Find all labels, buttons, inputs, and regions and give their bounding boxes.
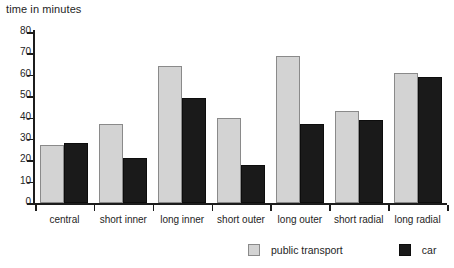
y-axis-tick-label: 20: [20, 153, 31, 164]
y-axis-tick: 0: [0, 203, 42, 204]
bar: [40, 145, 64, 203]
y-axis-tick-mark: [27, 160, 34, 162]
y-axis-tick-mark: [27, 203, 34, 205]
x-axis-tick-label: long radial: [394, 214, 440, 226]
x-axis-tick-mark: [94, 205, 96, 211]
bar: [158, 66, 182, 203]
x-axis-tick-label: central: [49, 214, 79, 226]
bar: [276, 56, 300, 203]
x-axis-tick-mark: [329, 205, 331, 211]
y-axis-tick-label: 80: [20, 25, 31, 36]
x-axis-tick-mark: [153, 205, 155, 211]
legend-item: public transport: [248, 244, 343, 256]
y-axis-tick-mark: [27, 75, 34, 77]
y-axis-tick-mark: [27, 139, 34, 141]
bar: [64, 143, 88, 203]
y-axis-tick: 20: [0, 160, 42, 161]
legend-item: car: [399, 244, 437, 256]
bar: [335, 111, 359, 203]
bar: [359, 120, 383, 203]
y-axis-tick: 60: [0, 75, 42, 76]
light-gray-square-icon: [248, 244, 260, 256]
chart-legend: public transportcar: [248, 242, 436, 258]
bar: [182, 98, 206, 203]
y-axis-tick-mark: [27, 182, 34, 184]
x-axis-tick-label: long outer: [278, 214, 322, 226]
y-axis-tick-label: 40: [20, 111, 31, 122]
black-square-icon: [399, 244, 411, 256]
legend-item-label: car: [422, 244, 437, 256]
x-axis-tick-mark: [270, 205, 272, 211]
y-axis-tick: 30: [0, 139, 42, 140]
bar: [217, 118, 241, 204]
x-axis-tick-mark: [35, 205, 37, 211]
y-axis-tick-label: 70: [20, 46, 31, 57]
bar: [394, 73, 418, 203]
x-axis-tick-mark: [447, 205, 449, 211]
bar: [241, 165, 265, 203]
y-axis-tick: 70: [0, 53, 42, 54]
chart-title: time in minutes: [6, 3, 81, 15]
bar: [99, 124, 123, 203]
x-axis-tick-label: short inner: [100, 214, 147, 226]
legend-item-label: public transport: [271, 244, 343, 256]
x-axis-tick-label: short outer: [217, 214, 265, 226]
y-axis-tick-mark: [27, 96, 34, 98]
y-axis-tick-label: 60: [20, 68, 31, 79]
bar: [418, 77, 442, 203]
y-axis-tick: 80: [0, 32, 42, 33]
bar-chart: time in minutes 01020304050607080 centra…: [0, 0, 454, 268]
y-axis-tick: 10: [0, 182, 42, 183]
x-axis-tick-mark: [388, 205, 390, 211]
y-axis-tick: 40: [0, 118, 42, 119]
y-axis-tick-label: 0: [25, 196, 31, 207]
bar: [123, 158, 147, 203]
y-axis-tick: 50: [0, 96, 42, 97]
y-axis-tick-label: 50: [20, 89, 31, 100]
y-axis-tick-label: 30: [20, 132, 31, 143]
y-axis-tick-label: 10: [20, 175, 31, 186]
y-axis-tick-mark: [27, 53, 34, 55]
x-axis-tick-mark: [212, 205, 214, 211]
x-axis-tick-label: long inner: [160, 214, 204, 226]
y-axis-tick-mark: [27, 118, 34, 120]
y-axis-tick-mark: [27, 32, 34, 34]
x-axis-tick-label: short radial: [334, 214, 383, 226]
bar: [300, 124, 324, 203]
